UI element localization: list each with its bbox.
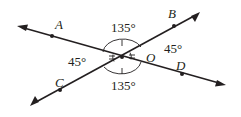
arrowhead-right-icon (215, 80, 226, 87)
point-O (120, 55, 124, 59)
arrowhead-left-icon (17, 25, 28, 32)
label-O: O (146, 50, 156, 65)
angle-label-bottom: 135° (111, 78, 136, 93)
angle-arc-bottom (104, 62, 141, 74)
angle-label-top: 135° (111, 20, 136, 35)
arrowhead-upper-right-icon (191, 12, 200, 22)
angle-label-left: 45° (68, 54, 86, 69)
label-D: D (175, 58, 186, 73)
angle-label-right: 45° (164, 41, 182, 56)
intersecting-lines-diagram: A B C D O 135° 135° 45° 45° (0, 0, 241, 117)
point-A (50, 34, 54, 38)
label-C: C (55, 75, 64, 90)
label-A: A (54, 17, 63, 32)
point-B (172, 24, 176, 28)
label-B: B (168, 6, 176, 21)
arrowhead-lower-left-icon (30, 96, 39, 106)
